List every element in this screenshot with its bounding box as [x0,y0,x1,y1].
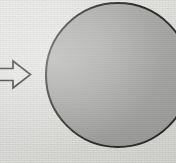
shaded-circle-group [46,3,176,147]
figure-container: ove ur ci owe [0,0,176,163]
block-arrow-right-icon [0,61,31,88]
block-arrow-right-group [0,61,31,88]
figure-drawing [0,0,176,163]
shaded-circle [46,3,176,147]
